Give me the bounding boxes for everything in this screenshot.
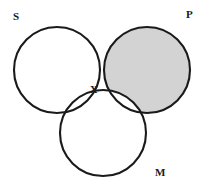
label-member-x: X: [90, 85, 98, 96]
label-set-m: M: [155, 167, 165, 178]
venn-diagram-figure: S P M X: [0, 0, 205, 189]
shaded-region-p-minus-m: [0, 0, 205, 189]
label-set-s: S: [13, 11, 19, 22]
label-set-p: P: [186, 9, 193, 20]
venn-diagram-svg: [0, 0, 205, 189]
